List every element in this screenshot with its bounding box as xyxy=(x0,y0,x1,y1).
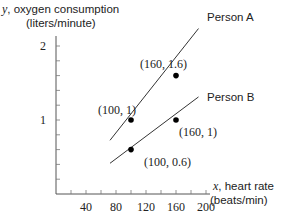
data-point xyxy=(173,117,179,123)
x-tick-label: 120 xyxy=(137,200,155,214)
x-axis-label-units: (beats/min) xyxy=(210,194,268,206)
x-tick-label: 40 xyxy=(80,200,92,214)
series-label: Person B xyxy=(207,91,255,103)
series-line xyxy=(110,29,199,141)
data-point xyxy=(128,147,134,153)
series-label: Person A xyxy=(207,11,254,23)
x-tick-label: 160 xyxy=(167,200,185,214)
point-label: (100, 0.6) xyxy=(144,155,191,169)
x-tick-label: 80 xyxy=(110,200,122,214)
point-label: (100, 1) xyxy=(98,103,136,117)
data-point xyxy=(173,73,179,79)
y-axis-label-units: (liters/minute) xyxy=(26,17,96,29)
y-axis-label: y, oxygen consumption xyxy=(1,2,119,16)
y-tick-label: 1 xyxy=(40,113,46,127)
x-axis-label: x, heart rate xyxy=(212,179,274,193)
chart: 12 4080120160200 y, oxygen consumption (… xyxy=(0,0,285,222)
point-label: (160, 1.6) xyxy=(140,57,187,71)
y-tick-label: 2 xyxy=(40,39,46,53)
data-point xyxy=(128,117,134,123)
point-label: (160, 1) xyxy=(179,125,217,139)
series-layer: (100, 1)(160, 1.6)Person A(100, 0.6)(160… xyxy=(98,11,255,169)
y-ticks: 12 xyxy=(40,39,60,179)
